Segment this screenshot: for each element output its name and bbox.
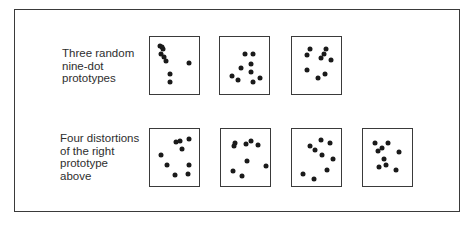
dot (320, 153, 325, 158)
dot (305, 53, 310, 58)
dot (319, 138, 324, 143)
distortions-panel-3 (291, 128, 342, 187)
top-label-line: prototypes (62, 72, 134, 85)
dot (329, 58, 334, 63)
dot (244, 142, 249, 147)
distortions-panel-1 (149, 128, 200, 187)
dot (308, 144, 313, 149)
dot (180, 147, 185, 152)
top-label-line: Three random (62, 47, 134, 60)
dot (325, 168, 330, 173)
dot (187, 61, 192, 66)
prototypes-panel-3 (291, 36, 342, 95)
dot (382, 157, 387, 162)
dot (312, 177, 317, 182)
dot (160, 45, 165, 50)
dot (305, 68, 310, 73)
dot (249, 70, 254, 75)
bottom-label-line: of the right (60, 145, 139, 158)
dot (249, 62, 254, 67)
dot (258, 76, 263, 81)
dot (331, 157, 336, 162)
dot (394, 168, 399, 173)
dot (380, 146, 385, 151)
distortions-panel-4 (362, 128, 413, 187)
dot (187, 137, 192, 142)
dot (251, 80, 256, 85)
bottom-label-line: Four distortions (60, 132, 139, 145)
bottom-row-label: Four distortions of the right prototype … (60, 132, 139, 182)
dot (236, 78, 241, 83)
dot (264, 164, 269, 169)
dot (328, 141, 333, 146)
dot (240, 174, 245, 179)
dot (384, 163, 389, 168)
dot (377, 165, 382, 170)
dot (164, 59, 169, 64)
dot (245, 159, 250, 164)
dot (168, 80, 173, 85)
dot (308, 47, 313, 52)
distortions-panel-2 (220, 128, 271, 187)
dot (230, 74, 235, 79)
dot (397, 150, 402, 155)
dot (232, 144, 237, 149)
dot (301, 172, 306, 177)
dot (319, 56, 324, 61)
bottom-label-line: prototype (60, 157, 139, 170)
bottom-label-line: above (60, 170, 139, 183)
dot (313, 148, 318, 153)
dot (256, 143, 261, 148)
top-label-line: nine-dot (62, 60, 134, 73)
top-row-label: Three random nine-dot prototypes (62, 47, 134, 85)
dot (178, 139, 183, 144)
dot (159, 153, 164, 158)
prototypes-panel-2 (219, 36, 270, 95)
dot (239, 66, 244, 71)
dot (323, 72, 328, 77)
dot (165, 163, 170, 168)
dot (243, 52, 248, 57)
prototypes-panel-1 (149, 36, 200, 95)
dot (168, 72, 173, 77)
dot (373, 141, 378, 146)
dot (316, 76, 321, 81)
dot (386, 141, 391, 146)
dot (173, 173, 178, 178)
dot (186, 172, 191, 177)
dot (251, 52, 256, 57)
dot (187, 163, 192, 168)
dot (249, 139, 254, 144)
dot (231, 169, 236, 174)
